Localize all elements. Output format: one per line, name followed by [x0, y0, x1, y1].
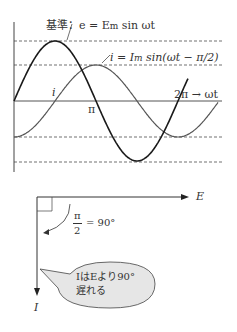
angle-arrowhead-icon — [43, 229, 49, 235]
current-equation: i = Im sin(ωt − π/2) — [110, 52, 219, 63]
fraction-bar — [73, 223, 82, 224]
angle-equation: = 90° — [86, 218, 115, 228]
i-arrowhead-icon — [34, 288, 40, 296]
angle-arc — [46, 204, 70, 232]
angle-numerator: π — [74, 211, 81, 221]
bubble-line-1: IはEより90° — [76, 270, 135, 284]
bubble-line-2: 遅れる — [76, 284, 106, 298]
reference-equation: 基準：e = Em sin ωt — [46, 20, 155, 31]
angle-denominator: 2 — [74, 226, 80, 236]
i-curve-label: i — [52, 87, 56, 98]
pi-tick-label: π — [88, 104, 95, 115]
current-leader-line — [102, 55, 110, 63]
two-pi-axis-label: 2π → ωt — [174, 89, 218, 100]
e-phasor-label: E — [196, 191, 204, 202]
i-phasor-label: I — [34, 302, 38, 313]
right-angle-mark — [37, 197, 52, 211]
e-arrowhead-icon — [181, 194, 189, 200]
